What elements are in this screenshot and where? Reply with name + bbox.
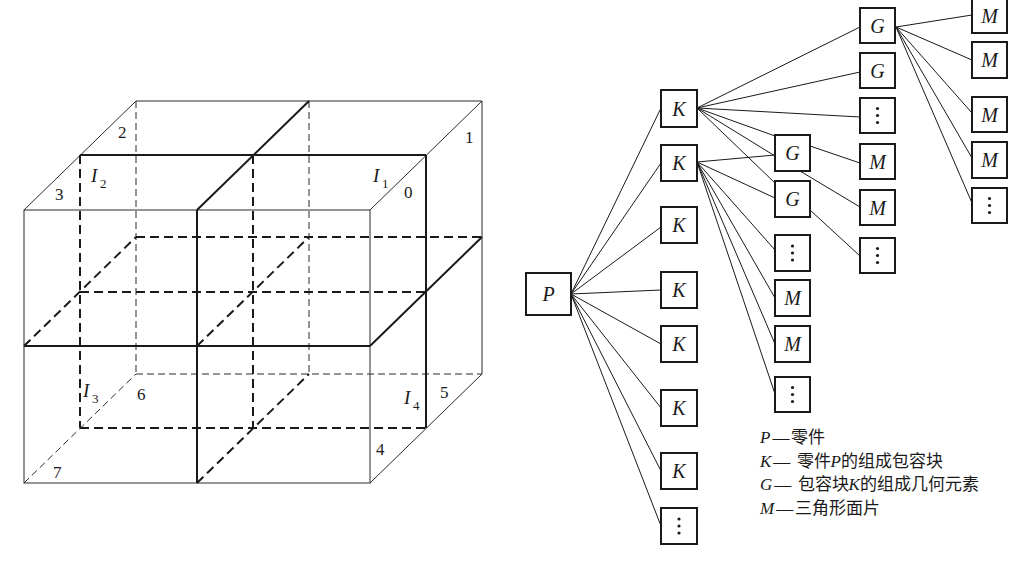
tree-edge	[571, 294, 661, 471]
tree-node-k: K	[661, 145, 697, 181]
node-label: K	[671, 333, 687, 355]
tree-node-g: G	[860, 53, 895, 88]
tree-edge	[810, 210, 860, 256]
node-label: M	[868, 197, 887, 219]
vertical-ellipsis-icon	[791, 400, 794, 403]
vertical-ellipsis-icon	[988, 197, 991, 200]
ellipsis-node	[860, 98, 895, 133]
node-label: K	[671, 214, 687, 236]
vertical-ellipsis-icon	[677, 524, 680, 527]
vertical-ellipsis-icon	[876, 107, 879, 110]
node-label: K	[671, 98, 687, 120]
vertical-ellipsis-icon	[791, 244, 794, 247]
node-label: K	[671, 152, 687, 174]
ellipsis-node	[661, 508, 697, 544]
tree-edge	[697, 162, 775, 198]
legend-item-p: P—零件	[760, 426, 979, 450]
vertical-ellipsis-icon	[677, 517, 680, 520]
legend: P—零件 K— 零件P的组成包容块 G— 包容块K的组成几何元素 M—三角形面片	[760, 426, 979, 520]
tree-node-m: M	[860, 144, 895, 179]
node-label: M	[980, 149, 999, 171]
node-label: G	[870, 60, 885, 82]
node-label: G	[870, 15, 885, 37]
vertical-ellipsis-icon	[791, 393, 794, 396]
tree-node-k: K	[661, 453, 697, 489]
ellipsis-node	[775, 235, 810, 271]
tree-edge	[697, 27, 860, 108]
tree-edge	[697, 108, 775, 183]
tree-node-p: P	[526, 273, 571, 315]
tree-edge	[697, 162, 775, 344]
tree-edge	[571, 294, 661, 408]
tree-edge	[896, 27, 972, 158]
tree-edge	[571, 294, 661, 344]
node-label: M	[980, 49, 999, 71]
tree-node-k: K	[661, 326, 697, 362]
vertical-ellipsis-icon	[876, 254, 879, 257]
tree-edge	[697, 108, 860, 117]
node-label: K	[671, 397, 687, 419]
vertical-ellipsis-icon	[988, 204, 991, 207]
ellipsis-node	[775, 377, 810, 412]
node-label: M	[868, 151, 887, 173]
tree-edge	[571, 227, 661, 294]
vertical-ellipsis-icon	[876, 247, 879, 250]
tree-node-m: M	[972, 42, 1007, 78]
node-label: K	[671, 279, 687, 301]
node-label: M	[783, 333, 802, 355]
node-label: K	[671, 460, 687, 482]
tree-edge	[571, 294, 661, 526]
legend-item-k: K— 零件P的组成包容块	[760, 450, 979, 474]
tree-node-m: M	[775, 280, 810, 316]
ellipsis-node	[860, 238, 895, 273]
tree-edge	[697, 155, 775, 162]
vertical-ellipsis-icon	[791, 251, 794, 254]
tree-edge	[896, 27, 972, 203]
ellipsis-node	[972, 188, 1007, 223]
vertical-ellipsis-icon	[876, 114, 879, 117]
tree-node-m: M	[972, 97, 1007, 132]
tree-node-m: M	[775, 326, 810, 362]
node-label: G	[785, 142, 800, 164]
node-label: M	[980, 5, 999, 27]
legend-item-m: M—三角形面片	[760, 497, 979, 521]
tree-node-m: M	[972, 142, 1007, 178]
tree-edge	[571, 290, 661, 294]
vertical-ellipsis-icon	[988, 211, 991, 214]
node-label: G	[785, 188, 800, 210]
tree-node-g: G	[860, 8, 895, 43]
tree-edge	[896, 15, 972, 27]
tree-node-g: G	[775, 181, 810, 217]
tree-edge	[896, 27, 972, 113]
legend-item-g: G— 包容块K的组成几何元素	[760, 473, 979, 497]
tree-edge	[571, 163, 661, 294]
tree-node-m: M	[860, 190, 895, 225]
tree-edge	[697, 162, 775, 250]
node-label: P	[541, 283, 554, 305]
tree-node-k: K	[661, 90, 697, 127]
vertical-ellipsis-icon	[791, 258, 794, 261]
tree-node-k: K	[661, 272, 697, 308]
tree-node-m: M	[972, 0, 1007, 33]
tree-node-k: K	[661, 207, 697, 243]
tree-node-k: K	[661, 390, 697, 426]
node-label: M	[980, 104, 999, 126]
vertical-ellipsis-icon	[791, 386, 794, 389]
tree-edge	[810, 146, 860, 163]
vertical-ellipsis-icon	[876, 261, 879, 264]
tree-edge	[697, 72, 860, 108]
vertical-ellipsis-icon	[876, 121, 879, 124]
tree-node-g: G	[775, 135, 810, 171]
node-label: M	[783, 287, 802, 309]
vertical-ellipsis-icon	[677, 531, 680, 534]
tree-edge	[896, 27, 972, 60]
tree-edge	[571, 108, 661, 294]
